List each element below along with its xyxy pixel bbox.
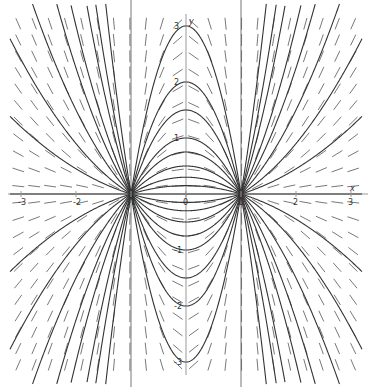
slope-mark <box>349 263 358 271</box>
y-tick-label: -1 <box>174 246 182 255</box>
slope-mark <box>318 295 324 306</box>
slope-mark <box>269 215 278 223</box>
slope-mark <box>189 361 198 369</box>
slope-mark <box>225 50 227 62</box>
x-tick-label: 1 <box>238 198 243 207</box>
slope-mark <box>205 231 214 238</box>
slope-mark <box>272 34 274 46</box>
slope-mark <box>188 169 200 170</box>
slope-mark <box>172 265 183 270</box>
slope-mark <box>208 34 212 45</box>
slope-mark <box>302 133 310 142</box>
slope-mark <box>301 150 310 158</box>
slope-mark <box>319 311 324 322</box>
slope-mark <box>316 168 327 173</box>
slope-mark <box>318 263 325 273</box>
slope-mark <box>64 327 68 338</box>
slope-mark <box>335 343 340 354</box>
slope-mark <box>145 99 147 111</box>
slope-mark <box>145 18 146 30</box>
slope-mark <box>31 67 37 78</box>
slope-mark <box>302 246 310 255</box>
slope-mark <box>257 278 259 290</box>
slope-mark <box>302 262 308 272</box>
slope-mark <box>299 185 311 187</box>
slope-mark <box>347 168 358 172</box>
slope-mark <box>113 359 114 371</box>
slope-mark <box>225 326 227 338</box>
slope-mark <box>304 18 307 30</box>
slope-mark <box>92 201 103 205</box>
slope-mark <box>206 116 213 126</box>
slope-mark <box>158 262 165 272</box>
slope-mark <box>13 168 24 172</box>
slope-mark <box>188 218 200 220</box>
slope-mark <box>319 67 324 78</box>
slope-mark <box>351 343 356 354</box>
slope-mark <box>172 281 183 286</box>
slope-mark <box>157 150 166 157</box>
slope-mark <box>173 53 183 60</box>
slope-mark <box>31 311 37 322</box>
slope-mark <box>30 247 39 255</box>
slope-mark <box>335 327 340 338</box>
slope-mark <box>351 35 356 46</box>
slope-mark <box>208 343 212 354</box>
slope-mark <box>318 116 325 125</box>
slope-mark <box>62 150 71 158</box>
slope-mark <box>47 83 53 94</box>
slope-mark <box>81 359 84 371</box>
slope-mark <box>45 168 56 173</box>
slope-mark <box>208 18 212 29</box>
slope-mark <box>288 310 291 321</box>
slope-mark <box>257 326 258 338</box>
slope-mark <box>257 99 259 111</box>
slope-mark <box>207 67 212 78</box>
slope-mark <box>189 329 199 336</box>
slope-mark <box>288 343 291 355</box>
y-tick-label: -3 <box>174 358 182 367</box>
slope-mark <box>64 310 68 321</box>
slope-mark <box>207 278 213 288</box>
slope-mark <box>287 99 292 110</box>
slope-mark <box>97 83 100 95</box>
slope-mark <box>303 83 308 94</box>
slope-mark <box>257 18 258 30</box>
slope-mark <box>15 67 21 77</box>
slope-mark <box>206 247 214 256</box>
slope-mark <box>225 294 227 306</box>
slope-mark <box>350 67 356 77</box>
slope-mark <box>160 34 164 45</box>
slope-mark <box>288 359 291 371</box>
slope-mark <box>225 359 226 371</box>
slope-mark <box>333 134 342 142</box>
slope-mark <box>303 51 307 62</box>
slope-mark <box>225 310 227 322</box>
slope-mark <box>64 67 68 78</box>
slope-mark <box>319 18 323 29</box>
slope-mark <box>348 232 359 238</box>
slope-mark <box>28 185 40 186</box>
slope-mark <box>272 83 275 95</box>
slope-mark <box>97 343 99 355</box>
y-tick-label: 1 <box>174 134 179 143</box>
slope-mark <box>207 294 212 305</box>
slope-mark <box>113 294 115 306</box>
slope-mark <box>81 343 84 355</box>
slope-mark <box>158 116 165 126</box>
slope-mark <box>284 215 294 222</box>
slope-mark <box>31 100 38 110</box>
slope-mark <box>113 326 114 338</box>
slope-mark <box>268 201 279 205</box>
slope-mark <box>189 345 198 353</box>
slope-mark <box>332 217 343 221</box>
slope-mark <box>301 231 310 239</box>
slope-mark <box>30 134 39 142</box>
slope-mark <box>79 262 84 273</box>
slope-mark <box>333 117 341 126</box>
slope-mark <box>16 35 21 46</box>
slope-mark <box>62 231 71 239</box>
slope-mark <box>335 51 340 62</box>
slope-mark <box>16 343 21 354</box>
slope-mark <box>142 165 149 175</box>
